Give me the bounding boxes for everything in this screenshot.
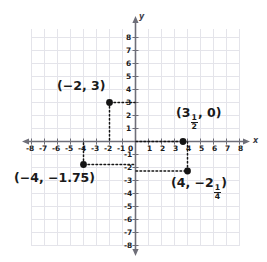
point-b-numerator: 1 bbox=[191, 114, 198, 122]
x-tick-label-4: 4 bbox=[186, 145, 191, 153]
point-b-label: (312, 0) bbox=[176, 107, 221, 131]
y-tick-label-4: 4 bbox=[126, 86, 131, 94]
point-d[interactable] bbox=[184, 168, 191, 175]
y-tick-label--7: -7 bbox=[124, 229, 132, 237]
x-tick-label-6: 6 bbox=[212, 145, 217, 153]
y-tick-label--6: -6 bbox=[124, 216, 132, 224]
y-tick-label-1: 1 bbox=[126, 125, 131, 133]
point-b-denominator: 2 bbox=[191, 122, 198, 131]
point-b-label-pre: (3 bbox=[176, 105, 190, 120]
x-tick-label-5: 5 bbox=[199, 145, 204, 153]
point-d-label-pre: (4, −2 bbox=[171, 175, 214, 190]
point-a-label: (−2, 3) bbox=[57, 80, 105, 93]
y-tick-label--4: -4 bbox=[124, 190, 132, 198]
x-tick-label--3: -3 bbox=[91, 145, 99, 153]
x-tick-label--8: -8 bbox=[26, 145, 34, 153]
y-tick-label--1: -1 bbox=[124, 151, 132, 159]
x-tick-label-8: 8 bbox=[238, 145, 243, 153]
point-d-label: (4, −214) bbox=[171, 177, 227, 201]
x-tick-label-3: 3 bbox=[173, 145, 178, 153]
point-c-label: (−4, −1.75) bbox=[14, 172, 95, 185]
x-axis-arrow-right bbox=[243, 138, 250, 144]
y-tick-label-5: 5 bbox=[126, 73, 131, 81]
y-axis-label: y bbox=[139, 13, 144, 21]
point-d-denominator: 4 bbox=[214, 192, 221, 201]
y-tick-label--3: -3 bbox=[124, 177, 132, 185]
y-tick-label--5: -5 bbox=[124, 203, 132, 211]
point-a[interactable] bbox=[106, 99, 113, 106]
y-tick-label-2: 2 bbox=[126, 112, 131, 120]
point-b-label-post: , 0) bbox=[198, 105, 222, 120]
y-axis-arrow-down bbox=[132, 249, 138, 256]
x-tick-label--5: -5 bbox=[65, 145, 73, 153]
x-tick-label-2: 2 bbox=[160, 145, 165, 153]
x-tick-label--2: -2 bbox=[104, 145, 112, 153]
y-tick-label-3: 3 bbox=[126, 99, 131, 107]
x-tick-label-1: 1 bbox=[147, 145, 152, 153]
x-axis-label: x bbox=[253, 137, 258, 145]
y-tick-label--2: -2 bbox=[124, 164, 132, 172]
point-b-fraction: 12 bbox=[191, 114, 198, 131]
point-d-fraction: 14 bbox=[214, 184, 221, 201]
y-tick-label-6: 6 bbox=[126, 60, 131, 68]
y-axis-arrow-up bbox=[132, 16, 138, 23]
point-d-label-post: ) bbox=[221, 175, 227, 190]
x-tick-label--7: -7 bbox=[39, 145, 47, 153]
y-tick-label-7: 7 bbox=[126, 47, 131, 55]
x-tick-label--6: -6 bbox=[52, 145, 60, 153]
y-tick-label-8: 8 bbox=[126, 34, 131, 42]
x-tick-label--4: -4 bbox=[78, 145, 86, 153]
x-tick-label-7: 7 bbox=[225, 145, 230, 153]
point-d-numerator: 1 bbox=[214, 184, 221, 192]
y-tick-label--8: -8 bbox=[124, 242, 132, 250]
coordinate-plane bbox=[0, 0, 267, 262]
point-c[interactable] bbox=[80, 161, 87, 168]
